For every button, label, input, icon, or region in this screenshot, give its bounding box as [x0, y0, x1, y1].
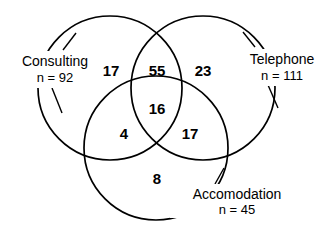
- count-telephone-only: 23: [195, 62, 212, 79]
- venn-diagram: Consulting n = 92 Telephone n = 111 Acco…: [0, 0, 334, 236]
- set-label-consulting-n: n = 92: [37, 70, 74, 85]
- leader-line-telephone-upper: [243, 32, 255, 47]
- circle-telephone: [131, 16, 275, 160]
- leader-line-consulting-lower: [52, 88, 62, 113]
- set-label-consulting-name: Consulting: [22, 53, 88, 69]
- set-label-telephone-n: n = 111: [261, 68, 303, 83]
- count-telephone-accomodation: 17: [182, 125, 199, 142]
- count-consulting-telephone: 55: [149, 62, 166, 79]
- count-consulting-accomodation: 4: [120, 125, 129, 142]
- leader-line-consulting-upper: [63, 33, 76, 50]
- set-label-accomodation-n: n = 45: [219, 202, 256, 217]
- count-consulting-only: 17: [103, 62, 120, 79]
- venn-diagram-canvas: Consulting n = 92 Telephone n = 111 Acco…: [0, 0, 334, 236]
- set-label-telephone-name: Telephone: [250, 51, 315, 67]
- set-label-accomodation-name: Accomodation: [193, 186, 282, 202]
- count-accomodation-only: 8: [153, 170, 161, 187]
- count-all-three: 16: [149, 100, 166, 117]
